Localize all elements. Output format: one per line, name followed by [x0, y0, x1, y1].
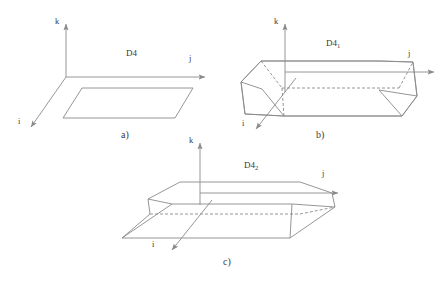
- panel-b-edge-right-vert: [413, 62, 417, 96]
- panel-b-edge-right-top: [379, 61, 413, 62]
- panel-b-hidden-vert: [282, 88, 284, 116]
- panel-b-edge-bottom-left: [245, 114, 284, 116]
- panel-a: [31, 24, 205, 127]
- panel-b-edge-top-left: [241, 61, 261, 82]
- panel-a-label-j: j: [189, 53, 191, 63]
- panel-b-label-i: i: [242, 118, 244, 128]
- panel-c-label-k: k: [189, 135, 193, 145]
- panel-b-region-subscript: 1: [337, 42, 340, 49]
- panel-c-label-i: i: [152, 239, 154, 249]
- panel-c-axis-i: [172, 200, 212, 250]
- panel-c-edge-mid-right: [292, 204, 335, 207]
- panel-a-caption: a): [121, 129, 129, 140]
- panel-b-edge-mid-left: [262, 89, 284, 116]
- panel-b-hidden-right-diag: [399, 62, 413, 88]
- panel-b-region-base: D4: [326, 38, 337, 48]
- panel-b-edge-mid-right: [379, 90, 402, 116]
- panel-b-edge-cap-left: [241, 82, 262, 89]
- panel-b-region-label: D41: [326, 38, 340, 48]
- panel-c-edge-left-low: [122, 214, 150, 238]
- panel-c-edge-left-vert: [148, 199, 150, 214]
- panel-a-label-k: k: [55, 16, 59, 26]
- panel-a-region-label: D4: [126, 48, 137, 58]
- panel-c-region-subscript: 2: [255, 164, 258, 171]
- panel-c-edge-top-left: [148, 182, 180, 199]
- figure-canvas: [0, 0, 440, 283]
- panel-c-edge-cap-left: [148, 199, 172, 204]
- panel-b-edge-cap-right: [379, 90, 417, 96]
- panel-c-region-base: D4: [244, 160, 255, 170]
- panel-b-label-j: j: [408, 48, 410, 58]
- panel-b-hidden-diag-left: [261, 61, 282, 88]
- panel-b-box: [241, 61, 417, 116]
- panel-b-label-k: k: [274, 16, 278, 26]
- panel-c-label-j: j: [322, 168, 324, 178]
- panel-c-edge-right-vert: [332, 193, 335, 207]
- panel-a-label-i: i: [18, 116, 20, 126]
- panel-a-axis-i: [31, 77, 66, 127]
- panel-b-axes: [256, 24, 434, 129]
- panel-c-box: [122, 182, 335, 238]
- panel-c-edge-mid-left: [122, 204, 172, 238]
- panel-b-axis-i: [256, 78, 296, 129]
- panel-b-edge-right-bottom: [402, 96, 417, 116]
- panel-b-caption: b): [316, 129, 324, 140]
- panel-a-parallelogram: [63, 88, 193, 118]
- panel-c-region-label: D42: [244, 160, 258, 170]
- panel-c-caption: c): [223, 256, 231, 267]
- panel-c-edge-cap-right-low: [290, 204, 292, 238]
- panel-b-edge-front-left-vert: [241, 82, 245, 114]
- panel-c-edge-right-top: [300, 182, 332, 193]
- panel-c: [122, 143, 338, 250]
